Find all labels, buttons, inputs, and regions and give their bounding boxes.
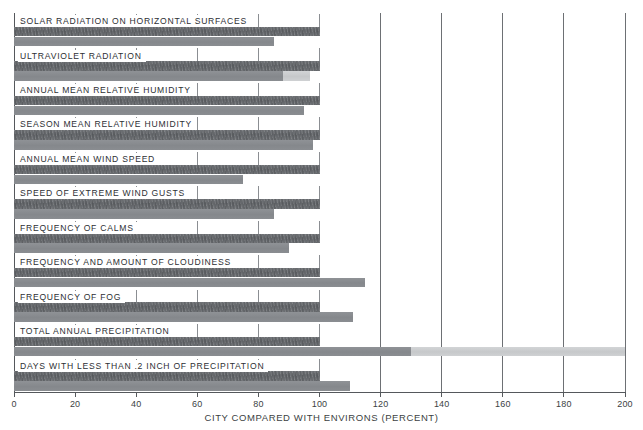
x-tick-mark-20 — [75, 392, 76, 397]
x-tick-mark-180 — [563, 392, 564, 397]
bar-row: DAYS WITH LESS THAN .2 INCH OF PRECIPITA… — [0, 358, 643, 392]
category-label: DAYS WITH LESS THAN .2 INCH OF PRECIPITA… — [18, 360, 268, 372]
bar-row: FREQUENCY AND AMOUNT OF CLOUDINESS — [0, 254, 643, 288]
x-tick-mark-160 — [502, 392, 503, 397]
category-label: SOLAR RADIATION ON HORIZONTAL SURFACES — [18, 15, 251, 27]
bar-row: ULTRAVIOLET RADIATION — [0, 47, 643, 81]
category-label: FREQUENCY OF FOG — [18, 291, 125, 303]
x-tick-label-60: 60 — [192, 399, 202, 409]
bar-row: SEASON MEAN RELATIVE HUMIDITY — [0, 116, 643, 150]
plot-area: SOLAR RADIATION ON HORIZONTAL SURFACESUL… — [0, 0, 643, 400]
x-tick-mark-200 — [625, 392, 626, 397]
bar-row: FREQUENCY OF CALMS — [0, 220, 643, 254]
x-tick-label-140: 140 — [434, 399, 450, 409]
bar-texture — [14, 61, 320, 70]
reference-bar — [14, 27, 320, 36]
x-tick-label-200: 200 — [617, 399, 633, 409]
value-bar — [14, 175, 243, 184]
reference-bar — [14, 337, 320, 346]
bar-row: TOTAL ANNUAL PRECIPITATION — [0, 323, 643, 357]
reference-bar — [14, 61, 320, 70]
reference-bar — [14, 371, 320, 380]
category-label: SEASON MEAN RELATIVE HUMIDITY — [18, 118, 196, 130]
category-label: ULTRAVIOLET RADIATION — [18, 50, 146, 62]
bar-texture — [14, 130, 320, 139]
bar-texture — [14, 234, 320, 243]
reference-bar — [14, 234, 320, 243]
x-tick-label-120: 120 — [373, 399, 389, 409]
bar-texture — [14, 268, 320, 277]
reference-bar — [14, 96, 320, 105]
bar-row: SOLAR RADIATION ON HORIZONTAL SURFACES — [0, 13, 643, 47]
x-tick-mark-120 — [380, 392, 381, 397]
category-label: ANNUAL MEAN RELATIVE HUMIDITY — [18, 84, 195, 96]
value-bar — [14, 278, 365, 287]
value-bar — [14, 106, 304, 115]
value-bar — [14, 71, 283, 80]
reference-bar — [14, 130, 320, 139]
x-tick-mark-0 — [14, 392, 15, 397]
bar-texture — [14, 96, 320, 105]
value-bar — [14, 347, 411, 356]
x-tick-mark-140 — [441, 392, 442, 397]
category-label: FREQUENCY OF CALMS — [18, 222, 138, 234]
x-axis-title: CITY COMPARED WITH ENVIRONS (PERCENT) — [0, 412, 643, 423]
bar-texture — [14, 302, 320, 311]
category-label: TOTAL ANNUAL PRECIPITATION — [18, 325, 174, 337]
x-tick-label-40: 40 — [131, 399, 141, 409]
x-tick-mark-100 — [319, 392, 320, 397]
x-tick-label-180: 180 — [556, 399, 572, 409]
category-label: ANNUAL MEAN WIND SPEED — [18, 153, 159, 165]
category-label: FREQUENCY AND AMOUNT OF CLOUDINESS — [18, 256, 235, 268]
value-bar — [14, 243, 289, 252]
x-tick-label-80: 80 — [253, 399, 263, 409]
bar-texture — [14, 337, 320, 346]
x-tick-label-0: 0 — [11, 399, 16, 409]
value-bar — [14, 312, 353, 321]
bar-texture — [14, 165, 320, 174]
x-tick-label-100: 100 — [312, 399, 328, 409]
value-bar — [14, 140, 313, 149]
bar-texture — [14, 27, 320, 36]
bar-row: ANNUAL MEAN RELATIVE HUMIDITY — [0, 82, 643, 116]
reference-bar — [14, 165, 320, 174]
x-tick-mark-40 — [136, 392, 137, 397]
x-tick-mark-80 — [258, 392, 259, 397]
bar-row: FREQUENCY OF FOG — [0, 289, 643, 323]
bar-row: SPEED OF EXTREME WIND GUSTS — [0, 185, 643, 219]
category-label: SPEED OF EXTREME WIND GUSTS — [18, 187, 189, 199]
chart-container: SOLAR RADIATION ON HORIZONTAL SURFACESUL… — [0, 0, 643, 430]
reference-bar — [14, 199, 320, 208]
reference-bar — [14, 268, 320, 277]
value-bar — [14, 381, 350, 390]
value-bar — [14, 37, 274, 46]
reference-bar — [14, 302, 320, 311]
bar-row: ANNUAL MEAN WIND SPEED — [0, 151, 643, 185]
x-tick-label-160: 160 — [495, 399, 511, 409]
x-tick-mark-60 — [197, 392, 198, 397]
bar-texture — [14, 371, 320, 380]
bar-texture — [14, 199, 320, 208]
x-tick-label-20: 20 — [70, 399, 80, 409]
value-bar — [14, 209, 274, 218]
